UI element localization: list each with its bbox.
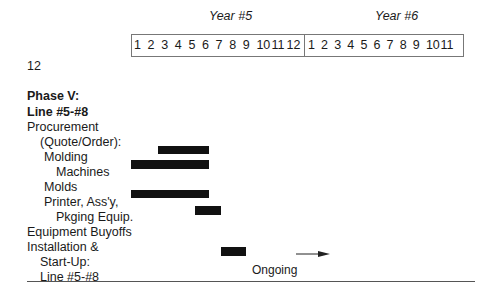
gantt-bar-pkging [195,206,221,215]
row-label-startup: Start-Up: [40,255,90,270]
overflow-month: 12 [27,59,41,74]
month-y6-9: 9 [413,38,420,52]
row-label-printer: Printer, Ass'y, [44,195,118,210]
month-y5-12: 12 [287,38,301,52]
row-label-installation: Installation & [27,240,99,255]
row-label-machines: Machines [56,165,110,180]
month-y6-8: 8 [400,38,407,52]
month-y5-2: 2 [148,38,155,52]
month-y6-2: 2 [321,38,328,52]
month-y5-9: 9 [243,38,250,52]
phase-subtitle: Line #5-#8 [27,105,88,120]
month-y5-5: 5 [188,38,195,52]
arrow-right-icon [296,250,330,258]
year6-label: Year #6 [375,9,418,23]
phase-title: Phase V: [27,89,79,104]
month-y5-10: 10 [256,38,270,52]
row-label-molds: Molds [44,180,77,195]
month-y5-8: 8 [229,38,236,52]
row-label-molding: Molding [44,150,88,165]
gantt-bar-machines [131,160,209,169]
year5-label: Year #5 [209,9,252,23]
gantt-bar-molding [158,146,209,154]
month-y5-11: 11 [272,38,285,52]
month-y6-10: 10 [426,38,440,52]
month-y6-6: 6 [374,38,381,52]
month-y5-4: 4 [175,38,182,52]
ongoing-label: Ongoing [252,263,297,278]
month-y6-3: 3 [334,38,341,52]
month-y6-5: 5 [360,38,367,52]
year-divider [304,34,305,57]
row-label-pkging: Pkging Equip. [56,210,133,225]
row-label-procurement: Procurement [27,120,99,135]
bottom-rule [27,281,475,282]
row-label-quote-order: (Quote/Order): [40,135,121,150]
gantt-bar-printer [131,190,209,198]
month-y5-6: 6 [202,38,209,52]
month-y6-7: 7 [387,38,394,52]
month-y5-7: 7 [216,38,223,52]
month-y5-1: 1 [134,38,141,52]
month-y6-11: 11 [441,38,454,52]
row-label-buyoffs: Equipment Buyoffs [27,225,132,240]
month-y6-4: 4 [347,38,354,52]
month-y6-1: 1 [308,38,315,52]
row-label-line: Line #5-#8 [40,270,99,285]
month-y5-3: 3 [161,38,168,52]
gantt-bar-startup [221,247,246,256]
